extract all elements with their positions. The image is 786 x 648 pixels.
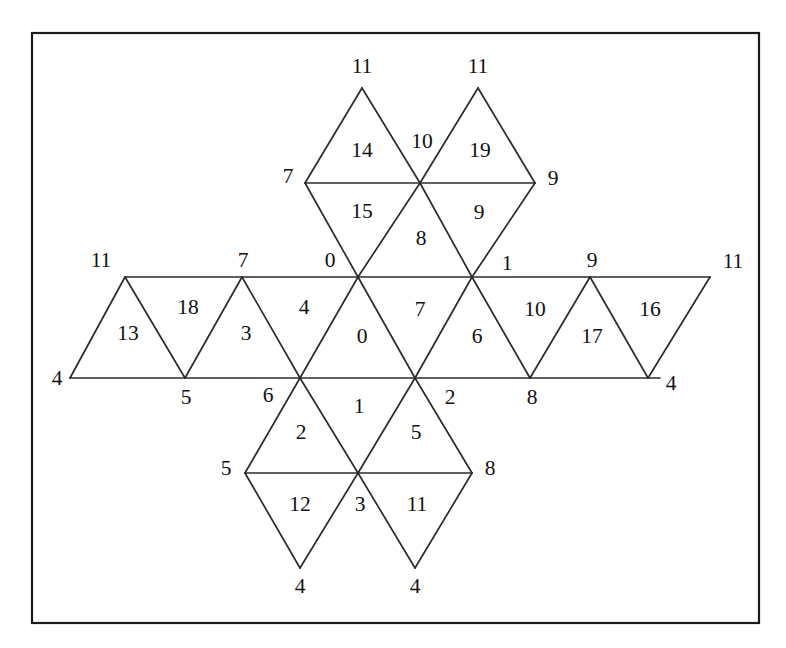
mesh-edge-e-s7 bbox=[415, 277, 472, 378]
face-label-f-16: 16 bbox=[639, 297, 661, 321]
vertex-label-v-strip-top-9: 9 bbox=[587, 248, 598, 272]
mesh-edge-e-s3 bbox=[185, 277, 242, 378]
face-label-f-15: 15 bbox=[351, 199, 373, 223]
vertex-label-v-top-left-apex: 11 bbox=[352, 54, 373, 78]
face-label-f-14: 14 bbox=[351, 138, 373, 162]
vertex-label-v-lower-left: 5 bbox=[221, 456, 232, 480]
face-label-f-0: 0 bbox=[357, 324, 368, 348]
vertex-label-v-center-top-right: 1 bbox=[502, 251, 513, 275]
vertex-label-v-strip-left-end-top: 11 bbox=[91, 248, 112, 272]
vertex-label-v-strip-right-end-bot: 4 bbox=[666, 371, 677, 395]
face-label-f-18: 18 bbox=[177, 295, 199, 319]
face-label-f-6: 6 bbox=[472, 324, 483, 348]
mesh-edge-e-b4 bbox=[415, 378, 472, 473]
mesh-edge-e-b5 bbox=[245, 473, 300, 568]
vertex-label-v-bot-right-apex: 4 bbox=[410, 574, 421, 598]
vertex-label-v-strip-bot-2: 2 bbox=[445, 385, 456, 409]
face-label-f-3b: 3 bbox=[355, 492, 366, 516]
mesh-edge-e-b2 bbox=[300, 378, 358, 473]
face-label-f-4: 4 bbox=[299, 295, 310, 319]
mesh-edge-e-t4 bbox=[478, 88, 535, 183]
face-label-f-9: 9 bbox=[474, 200, 485, 224]
vertex-label-v-strip-bot-8: 8 bbox=[527, 385, 538, 409]
face-label-f-2: 2 bbox=[296, 420, 307, 444]
face-label-f-17: 17 bbox=[581, 324, 603, 348]
face-label-f-5: 5 bbox=[411, 420, 422, 444]
mesh-edge-e-b8 bbox=[415, 473, 472, 568]
face-label-f-13: 13 bbox=[117, 321, 139, 345]
vertex-label-layer: 111179117019114562845844 bbox=[52, 54, 744, 598]
mesh-edge-e-b3 bbox=[358, 378, 415, 473]
face-label-layer: 141019159813183407610171621512311 bbox=[117, 129, 661, 516]
vertex-label-v-strip-left-end-bot: 4 bbox=[52, 366, 63, 390]
face-label-f-3: 3 bbox=[241, 321, 252, 345]
face-label-f-10b: 10 bbox=[524, 297, 546, 321]
mesh-edge-layer bbox=[70, 88, 710, 568]
mesh-edge-e-s5 bbox=[300, 277, 358, 378]
vertex-label-v-center-top-left: 0 bbox=[325, 248, 336, 272]
face-label-f-1: 1 bbox=[354, 394, 365, 418]
face-label-f-11: 11 bbox=[407, 492, 428, 516]
mesh-edge-e-t6 bbox=[358, 183, 420, 277]
mesh-edge-e-b7 bbox=[358, 473, 415, 568]
figure-container: 141019159813183407610171621512311 111179… bbox=[0, 0, 786, 648]
mesh-edge-e-b6 bbox=[300, 473, 358, 568]
vertex-label-v-upper-right: 9 bbox=[548, 166, 559, 190]
vertex-label-v-upper-left: 7 bbox=[283, 164, 294, 188]
mesh-diagram: 141019159813183407610171621512311 111179… bbox=[0, 0, 786, 648]
vertex-label-v-strip-bot-6: 6 bbox=[263, 383, 274, 407]
face-label-f-10: 10 bbox=[411, 129, 433, 153]
face-label-f-19: 19 bbox=[469, 138, 491, 162]
vertex-label-v-strip-right-end-top: 11 bbox=[723, 249, 744, 273]
face-label-f-7: 7 bbox=[415, 297, 426, 321]
mesh-edge-e-t7 bbox=[420, 183, 472, 277]
face-label-f-8: 8 bbox=[416, 226, 427, 250]
vertex-label-v-lower-right: 8 bbox=[485, 456, 496, 480]
mesh-edge-e-s11 bbox=[648, 277, 710, 378]
vertex-label-v-bot-left-apex: 4 bbox=[295, 574, 306, 598]
vertex-label-v-strip-top-7: 7 bbox=[238, 248, 249, 272]
face-label-f-12: 12 bbox=[289, 492, 311, 516]
mesh-edge-e-t1 bbox=[305, 88, 362, 183]
vertex-label-v-strip-bot-5: 5 bbox=[181, 385, 192, 409]
vertex-label-v-top-right-apex: 11 bbox=[468, 54, 489, 78]
